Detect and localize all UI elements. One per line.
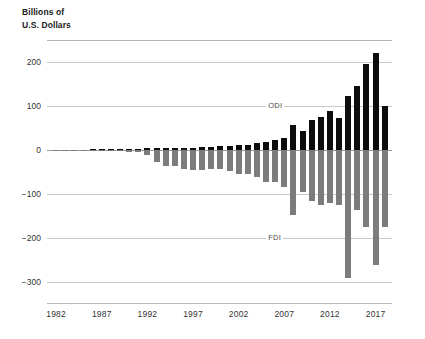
bar-fdi-2011 <box>318 150 324 205</box>
bar-fdi-2016 <box>363 150 369 227</box>
y-axis-title-line-2: U.S. Dollars <box>22 19 71 32</box>
gridline-100 <box>47 106 392 107</box>
bar-odi-2017 <box>373 53 379 150</box>
bar-fdi-2007 <box>281 150 287 187</box>
bar-fdi-2018 <box>382 150 388 227</box>
bar-odi-2010 <box>309 120 315 150</box>
bar-fdi-2005 <box>263 150 269 182</box>
bar-fdi-1982 <box>53 150 59 151</box>
gridline-200 <box>47 62 392 63</box>
plot-area: ODIFDI <box>47 40 392 300</box>
bar-odi-2015 <box>354 86 360 150</box>
y-tick-label-200: 200 <box>0 57 41 67</box>
bar-fdi-2006 <box>272 150 278 182</box>
bar-odi-2018 <box>382 106 388 150</box>
bar-odi-2012 <box>327 111 333 150</box>
bar-fdi-1992 <box>144 150 150 155</box>
bar-odi-2011 <box>318 117 324 150</box>
bar-fdi-1998 <box>199 150 205 170</box>
bar-odi-2009 <box>300 131 306 150</box>
bar-fdi-1985 <box>81 150 87 151</box>
bar-odi-2004 <box>254 143 260 150</box>
bar-fdi-1999 <box>208 150 214 169</box>
gridline--300 <box>47 282 392 283</box>
bar-fdi-1990 <box>126 150 132 152</box>
bar-odi-2014 <box>345 96 351 150</box>
bar-fdi-1987 <box>99 150 105 151</box>
bar-fdi-2010 <box>309 150 315 201</box>
bar-fdi-2013 <box>336 150 342 205</box>
bar-fdi-2008 <box>290 150 296 215</box>
bar-fdi-2017 <box>373 150 379 265</box>
x-tick-label-1992: 1992 <box>138 309 158 319</box>
x-tick-label-1982: 1982 <box>46 309 66 319</box>
bar-odi-2006 <box>272 140 278 150</box>
bar-fdi-1993 <box>154 150 160 162</box>
x-tick-label-2002: 2002 <box>229 309 249 319</box>
y-tick-label--100: −100 <box>0 189 41 199</box>
bar-fdi-2015 <box>354 150 360 209</box>
bar-fdi-2009 <box>300 150 306 192</box>
bar-fdi-2001 <box>227 150 233 171</box>
x-tick-label-2007: 2007 <box>274 309 294 319</box>
bar-fdi-1989 <box>117 150 123 151</box>
bar-odi-2016 <box>363 64 369 150</box>
y-tick-label-100: 100 <box>0 101 41 111</box>
x-tick-label-2017: 2017 <box>366 309 386 319</box>
bar-fdi-2002 <box>236 150 242 173</box>
bar-fdi-1995 <box>172 150 178 166</box>
bar-fdi-2012 <box>327 150 333 203</box>
bar-fdi-2004 <box>254 150 260 177</box>
x-tick-label-2012: 2012 <box>320 309 340 319</box>
x-tick-label-1997: 1997 <box>183 309 203 319</box>
y-tick-label--300: −300 <box>0 277 41 287</box>
bar-odi-2008 <box>290 125 296 150</box>
series-label-odi: ODI <box>266 101 284 110</box>
bar-fdi-2000 <box>217 150 223 169</box>
gridline--200 <box>47 238 392 239</box>
y-tick-label--200: −200 <box>0 233 41 243</box>
bar-fdi-1983 <box>62 150 68 151</box>
x-axis-line <box>47 303 392 304</box>
bar-odi-2005 <box>263 142 269 150</box>
bar-fdi-1984 <box>71 150 77 151</box>
plot-top-rule <box>47 40 392 41</box>
bar-fdi-2014 <box>345 150 351 278</box>
x-tick-label-1987: 1987 <box>92 309 112 319</box>
y-axis-title-line-1: Billions of <box>22 6 71 19</box>
y-tick-label-0: 0 <box>0 145 41 155</box>
y-axis-title: Billions of U.S. Dollars <box>22 6 71 31</box>
bar-fdi-1988 <box>108 150 114 151</box>
bar-fdi-1986 <box>90 150 96 151</box>
bar-fdi-1996 <box>181 150 187 169</box>
series-label-fdi: FDI <box>266 233 283 242</box>
bar-fdi-1994 <box>163 150 169 165</box>
bar-fdi-2003 <box>245 150 251 174</box>
bar-odi-2013 <box>336 118 342 150</box>
bar-fdi-1997 <box>190 150 196 170</box>
bar-odi-2007 <box>281 138 287 150</box>
chart-container: Billions of U.S. Dollars ODIFDI 2001000−… <box>0 0 425 339</box>
bar-fdi-1991 <box>135 150 141 152</box>
